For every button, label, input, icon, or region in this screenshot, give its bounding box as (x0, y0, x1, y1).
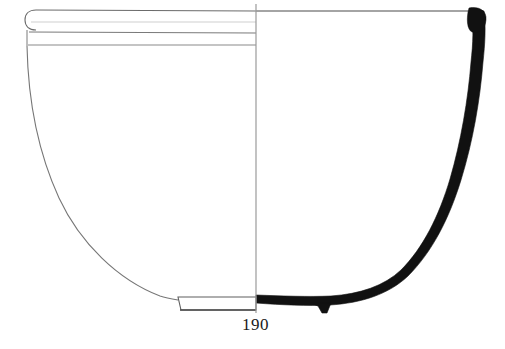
section-wall-solid (256, 9, 485, 305)
elevation-half-left (25, 10, 256, 310)
foot-spur (310, 303, 331, 313)
catalog-number-label: 190 (0, 316, 505, 333)
drawing-canvas: 190 (0, 0, 505, 349)
foot-ring (178, 297, 256, 310)
band-line-upper (29, 32, 256, 33)
body-wall-outline (27, 46, 178, 300)
pottery-profile-drawing (0, 0, 505, 349)
rim-top-line-left (36, 10, 256, 11)
section-half-right (256, 8, 486, 314)
rounded-rim-edge (25, 10, 36, 30)
rim-thickening-right (467, 8, 486, 33)
